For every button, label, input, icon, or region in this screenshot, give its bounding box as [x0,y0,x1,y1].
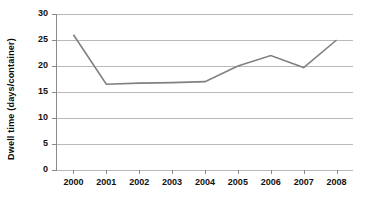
x-axis-tick [238,170,239,174]
y-axis-tick-labels: 051015202530 [8,0,48,198]
y-axis-tick [52,170,56,171]
x-axis-tick [106,170,107,174]
x-axis-tick [73,170,74,174]
y-axis-tick [52,14,56,15]
y-axis-tick-label: 10 [8,112,48,122]
y-axis-tick [52,40,56,41]
y-axis-tick-label: 30 [8,8,48,18]
y-axis-tick-label: 5 [8,138,48,148]
y-axis-tick-label: 15 [8,86,48,96]
y-axis-tick [52,118,56,119]
x-axis-tick [205,170,206,174]
line-chart: Dwell time (days/container) 051015202530… [0,0,369,198]
gridline [57,144,353,145]
x-axis-tick [139,170,140,174]
y-axis-tick [52,66,56,67]
x-axis-tick [271,170,272,174]
x-axis-tick [172,170,173,174]
x-axis-tick-label: 2008 [315,177,359,187]
y-axis-tick [52,92,56,93]
gridline [57,66,353,67]
x-axis-tick [337,170,338,174]
y-axis-tick-label: 20 [8,60,48,70]
y-axis-tick-label: 0 [8,164,48,174]
x-axis-tick [304,170,305,174]
gridline [57,40,353,41]
y-axis-tick-label: 25 [8,34,48,44]
gridline [57,118,353,119]
y-axis-tick [52,144,56,145]
plot-area [57,14,353,170]
gridline [57,92,353,93]
gridline [57,14,353,15]
